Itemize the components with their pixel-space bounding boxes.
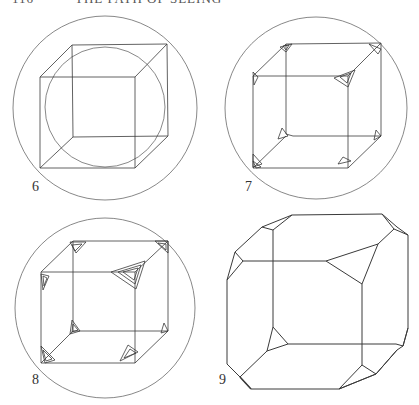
figure-label-7: 7 (245, 180, 252, 194)
figure-label-6: 6 (32, 180, 39, 194)
figure-6-drawing (13, 16, 197, 200)
figure-7-drawing (225, 17, 407, 199)
figure-label-8: 8 (32, 373, 39, 387)
figure-plate (0, 0, 419, 405)
figure-label-9: 9 (219, 373, 226, 387)
figure-9-drawing (227, 214, 408, 389)
figure-8-drawing (15, 218, 195, 398)
